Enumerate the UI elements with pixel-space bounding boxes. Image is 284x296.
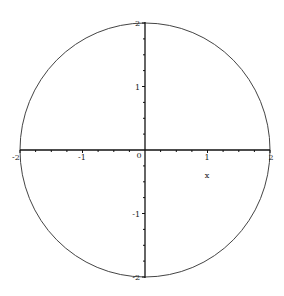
y-tick-label-1: 1 (135, 83, 140, 92)
y-tick-label-neg1: -1 (132, 210, 140, 219)
circle-plot: -2 -1 0 1 2 2 1 -1 -2 x (0, 0, 284, 296)
x-tick-label-neg2: -2 (12, 153, 20, 162)
y-tick-label-neg2: -2 (132, 273, 140, 282)
x-tick-label-1: 1 (204, 153, 209, 162)
y-tick-label-2: 2 (135, 19, 140, 28)
x-tick-label-2: 2 (268, 153, 273, 162)
x-tick-label-neg1: -1 (78, 153, 86, 162)
x-axis-label: x (205, 171, 210, 180)
origin-label: 0 (136, 151, 141, 160)
